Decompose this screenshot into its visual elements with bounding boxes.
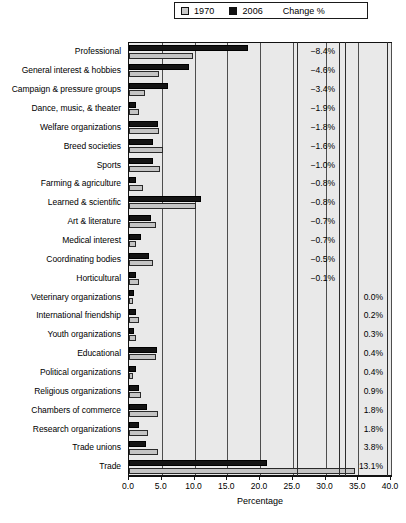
bar-1970[interactable]: [129, 109, 139, 115]
bar-1970[interactable]: [129, 335, 136, 341]
x-axis-tick-labels: 0.05.010.015.020.025.030.035.040.0: [0, 481, 406, 493]
change-percent-value: 1.8%: [346, 400, 387, 419]
bar-2006[interactable]: [129, 139, 153, 145]
bar-2006[interactable]: [129, 290, 134, 296]
bar-2006[interactable]: [129, 177, 136, 183]
bar-2006[interactable]: [129, 45, 248, 51]
bar-1970[interactable]: [129, 185, 143, 191]
change-percent-spacer: [298, 400, 339, 419]
category-label: Veterinary organizations: [0, 287, 125, 306]
x-axis-tick: [194, 476, 195, 480]
bar-2006[interactable]: [129, 272, 136, 278]
change-percent-spacer: [298, 325, 339, 344]
change-percent-spacer: [298, 438, 339, 457]
bar-2006[interactable]: [129, 441, 146, 447]
change-percent-spacer: [346, 212, 387, 231]
change-percent-value: −8.4%: [298, 42, 339, 61]
bar-1970[interactable]: [129, 90, 145, 96]
bar-1970[interactable]: [129, 298, 133, 304]
change-percent-value: 0.4%: [346, 344, 387, 363]
change-percent-spacer: [346, 80, 387, 99]
change-percent-spacer: [346, 174, 387, 193]
bar-2006[interactable]: [129, 215, 151, 221]
bar-2006[interactable]: [129, 158, 153, 164]
bar-2006[interactable]: [129, 366, 136, 372]
bar-2006[interactable]: [129, 196, 201, 202]
legend-entry-2006: 2006: [229, 6, 262, 16]
bar-1970[interactable]: [129, 411, 158, 417]
change-percent-value: −1.6%: [298, 136, 339, 155]
change-percent-value: 3.8%: [346, 438, 387, 457]
bar-1970[interactable]: [129, 279, 139, 285]
change-percent-spacer: [298, 419, 339, 438]
category-label: Research organizations: [0, 419, 125, 438]
bar-1970[interactable]: [129, 71, 159, 77]
category-label: Religious organizations: [0, 381, 125, 400]
bar-1970[interactable]: [129, 392, 141, 398]
x-axis-tick: [226, 476, 227, 480]
change-percent-spacer: [298, 287, 339, 306]
bar-2006[interactable]: [129, 385, 139, 391]
change-percent-spacer: [298, 381, 339, 400]
x-axis-tick-label: 35.0: [342, 481, 372, 491]
category-label: Educational: [0, 344, 125, 363]
bar-1970[interactable]: [129, 354, 156, 360]
bar-2006[interactable]: [129, 64, 189, 70]
change-percent-spacer: [346, 231, 387, 250]
category-label: Breed societies: [0, 136, 125, 155]
bar-1970[interactable]: [129, 147, 163, 153]
category-label: Political organizations: [0, 363, 125, 382]
bar-1970[interactable]: [129, 166, 160, 172]
bar-2006[interactable]: [129, 102, 136, 108]
x-axis-tick: [128, 476, 129, 480]
bar-2006[interactable]: [129, 328, 134, 334]
bar-1970[interactable]: [129, 260, 153, 266]
bar-2006[interactable]: [129, 253, 149, 259]
change-percent-spacer: [346, 155, 387, 174]
change-percent-value: −0.8%: [298, 174, 339, 193]
bar-1970[interactable]: [129, 430, 148, 436]
chart-page: 1970 2006 Change % ProfessionalGeneral i…: [0, 0, 406, 523]
legend-label-2006: 2006: [242, 6, 262, 16]
bar-2006[interactable]: [129, 234, 141, 240]
change-percent-spacer: [298, 344, 339, 363]
category-label: International friendship: [0, 306, 125, 325]
category-axis-labels: ProfessionalGeneral interest & hobbiesCa…: [0, 42, 125, 476]
change-percent-value: −0.5%: [298, 249, 339, 268]
change-percent-value: −1.9%: [298, 99, 339, 118]
category-label: Horticultural: [0, 268, 125, 287]
x-axis-tick: [390, 476, 391, 480]
bar-1970[interactable]: [129, 449, 158, 455]
change-percent-spacer: [346, 249, 387, 268]
change-percent-value: −0.8%: [298, 193, 339, 212]
x-axis-title: Percentage: [128, 496, 392, 506]
category-label: Dance, music, & theater: [0, 99, 125, 118]
bar-1970[interactable]: [129, 317, 139, 323]
change-percent-spacer: [298, 457, 339, 476]
category-label: Campaign & pressure groups: [0, 80, 125, 99]
change-percent-value: 0.4%: [346, 363, 387, 382]
change-percent-value: −0.7%: [298, 212, 339, 231]
x-axis-tick-label: 15.0: [211, 481, 241, 491]
bar-1970[interactable]: [129, 241, 136, 247]
bar-2006[interactable]: [129, 121, 158, 127]
bar-1970[interactable]: [129, 222, 156, 228]
bar-1970[interactable]: [129, 53, 193, 59]
bar-2006[interactable]: [129, 347, 157, 353]
bar-2006[interactable]: [129, 309, 136, 315]
category-label: Art & literature: [0, 212, 125, 231]
category-label: Learned & scientific: [0, 193, 125, 212]
bar-1970[interactable]: [129, 203, 196, 209]
bar-2006[interactable]: [129, 83, 168, 89]
change-percent-value: −3.4%: [298, 80, 339, 99]
bar-2006[interactable]: [129, 460, 267, 466]
change-percent-value: 0.0%: [346, 287, 387, 306]
category-label: Coordinating bodies: [0, 249, 125, 268]
chart-legend: 1970 2006 Change %: [174, 2, 368, 19]
bar-1970[interactable]: [129, 373, 133, 379]
bar-2006[interactable]: [129, 404, 147, 410]
bar-2006[interactable]: [129, 422, 139, 428]
bar-1970[interactable]: [129, 128, 159, 134]
x-axis-tick-label: 30.0: [310, 481, 340, 491]
change-percent-value: 13.1%: [346, 457, 387, 476]
